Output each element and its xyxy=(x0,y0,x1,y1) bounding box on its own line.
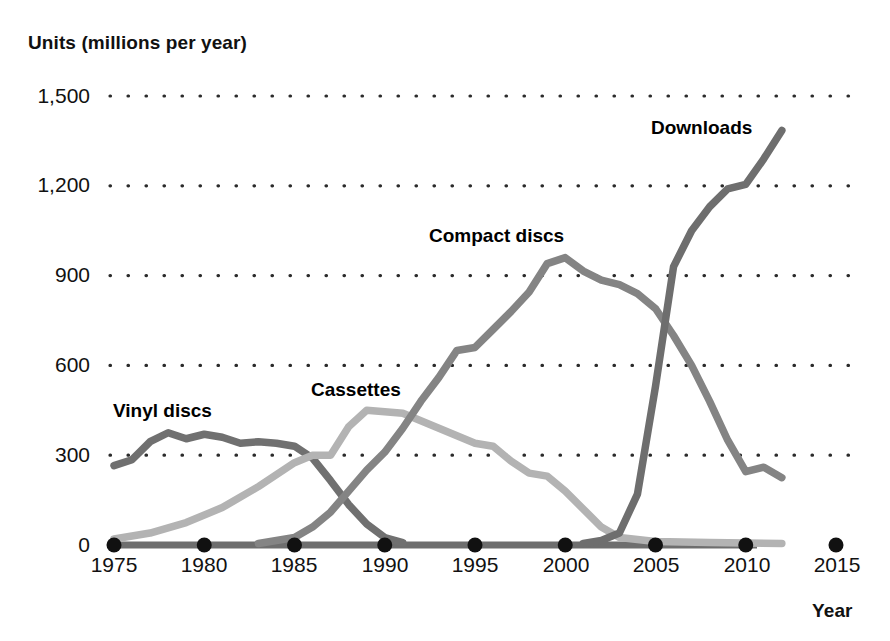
x-marker-1985 xyxy=(287,538,302,553)
x-marker-1975 xyxy=(107,538,122,553)
x-marker-2000 xyxy=(558,538,573,553)
line-chart: Units (millions per year) Year 1,500 1,2… xyxy=(0,0,890,641)
x-marker-2005 xyxy=(648,538,663,553)
x-marker-2010 xyxy=(738,538,753,553)
series-line-downloads xyxy=(583,130,782,543)
series-line-compact-discs xyxy=(258,258,781,544)
plot-area xyxy=(0,0,890,641)
x-marker-2015 xyxy=(829,538,844,553)
x-marker-1990 xyxy=(377,538,392,553)
x-marker-1995 xyxy=(468,538,483,553)
gridlines xyxy=(110,96,858,545)
series-line-cassettes xyxy=(114,410,782,543)
x-marker-1980 xyxy=(197,538,212,553)
series-lines xyxy=(114,130,782,543)
